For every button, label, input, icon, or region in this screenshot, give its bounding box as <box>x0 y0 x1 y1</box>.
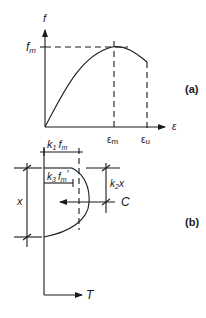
y-axis-label: f <box>43 12 47 24</box>
k3-fm-label: k3fm' <box>47 169 70 183</box>
k2x-label: k2x <box>110 178 125 190</box>
panel-a <box>40 30 165 131</box>
fm-label: fm <box>26 40 36 55</box>
panel-b-label: (b) <box>185 216 199 228</box>
x-axis-label: ε <box>172 121 177 132</box>
compression-label: C <box>121 195 130 209</box>
panel-a-label: (a) <box>185 83 199 95</box>
depth-label: x <box>16 195 23 207</box>
eps-u-label: εu <box>141 134 150 146</box>
k1-fm-label: k1fm <box>47 138 67 151</box>
stress-strain-diagram: f ε fm εm εu (a) k1fm k3fm' k2x x C T (b… <box>0 0 206 318</box>
eps-m-label: εm <box>107 134 118 146</box>
stress-strain-curve <box>45 47 147 127</box>
tension-label: T <box>86 288 95 302</box>
